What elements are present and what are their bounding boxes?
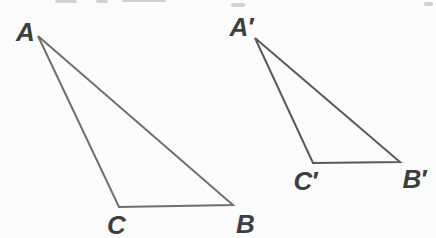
- scan-artifact: [424, 2, 433, 6]
- vertex-label-B-prime: B′: [402, 166, 425, 192]
- triangles-svg: [0, 0, 436, 238]
- vertex-label-A-prime: A′: [229, 14, 252, 40]
- scan-artifact: [122, 0, 166, 2]
- vertex-label-C: C: [107, 212, 125, 238]
- vertex-label-A: A: [16, 19, 34, 45]
- vertex-label-C-prime: C′: [293, 168, 316, 194]
- scan-artifact: [96, 0, 108, 3]
- scan-artifact: [55, 0, 77, 3]
- scan-artifact: [231, 3, 245, 7]
- vertex-label-B: B: [236, 211, 254, 237]
- geometry-diagram: A C B A′ C′ B′: [0, 0, 436, 238]
